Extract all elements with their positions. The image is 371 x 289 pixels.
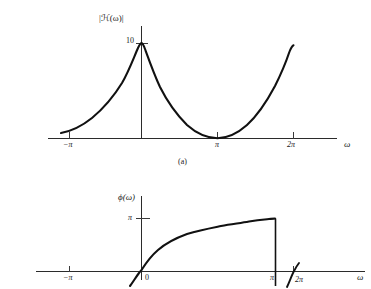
figure-root: |ℋ(ω)| 10 −π π 2π ω (a) ϕ(ω) π −π 0 π 2π… bbox=[0, 0, 371, 289]
magnitude-curve bbox=[61, 43, 294, 138]
magnitude-xtick-neg-pi-label: −π bbox=[63, 141, 72, 149]
phase-panel bbox=[36, 196, 365, 287]
phase-xtick-pi-label: π bbox=[270, 274, 274, 282]
magnitude-ytick-10-label: 10 bbox=[126, 37, 134, 45]
magnitude-y-axis-label: |ℋ(ω)| bbox=[99, 14, 124, 23]
phase-x-axis-label: ω bbox=[357, 273, 363, 282]
magnitude-ylabel-text: |ℋ(ω)| bbox=[99, 13, 124, 23]
phase-xtick-neg-pi-label: −π bbox=[63, 274, 72, 282]
magnitude-panel bbox=[48, 26, 337, 139]
magnitude-xtick-pi-label: π bbox=[215, 141, 219, 149]
subplot-a-caption: (a) bbox=[178, 158, 187, 166]
figure-canvas bbox=[0, 0, 371, 289]
phase-xtick-2pi-label: 2π bbox=[295, 276, 303, 284]
magnitude-xtick-2pi-label: 2π bbox=[287, 141, 295, 149]
magnitude-x-axis-label: ω bbox=[344, 140, 350, 149]
phase-xtick-zero-label: 0 bbox=[145, 274, 149, 282]
phase-curve-rising bbox=[130, 219, 275, 287]
phase-y-axis-label: ϕ(ω) bbox=[118, 193, 135, 202]
phase-ytick-pi-label: π bbox=[128, 214, 132, 222]
